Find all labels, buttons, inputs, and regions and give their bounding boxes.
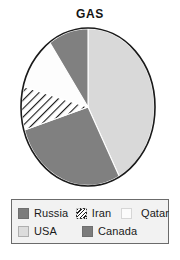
chart-legend: Russia Iran Qatar USA Canada — [11, 199, 169, 244]
legend-label-russia: Russia — [34, 207, 68, 220]
legend-label-iran: Iran — [92, 207, 111, 220]
legend-item-russia[interactable]: Russia — [18, 204, 76, 222]
legend-item-qatar[interactable]: Qatar — [121, 204, 163, 222]
legend-label-qatar: Qatar — [141, 207, 169, 220]
legend-row: Russia Iran Qatar — [18, 204, 163, 222]
pie-slices — [22, 29, 155, 186]
legend-label-canada: Canada — [98, 225, 137, 238]
chart-title: GAS — [0, 7, 180, 21]
legend-swatch-russia — [18, 208, 29, 219]
legend-item-canada[interactable]: Canada — [82, 222, 162, 240]
legend-row: USA Canada — [18, 222, 163, 240]
pie-chart-svg — [20, 26, 158, 188]
legend-item-usa[interactable]: USA — [18, 222, 82, 240]
legend-swatch-qatar — [121, 208, 132, 219]
pie-chart — [20, 26, 158, 188]
legend-item-iran[interactable]: Iran — [76, 204, 121, 222]
legend-swatch-canada — [82, 226, 93, 237]
legend-swatch-iran — [76, 208, 87, 219]
legend-label-usa: USA — [34, 225, 57, 238]
gas-pie-chart-figure: GAS Russia Iran Qata — [0, 0, 180, 260]
legend-swatch-usa — [18, 226, 29, 237]
